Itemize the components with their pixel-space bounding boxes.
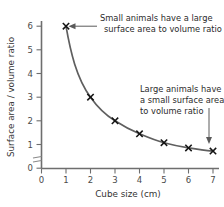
- y-tick-label-0: 0: [28, 163, 33, 173]
- y-tick-label-1: 1: [28, 140, 33, 150]
- y-tick-label-3: 3: [28, 92, 33, 102]
- annotation-large-animals-line3: to volume ratio: [140, 106, 203, 116]
- x-tick-label-3: 3: [112, 175, 117, 185]
- arrow-down-icon: [206, 137, 212, 144]
- data-point-4: [136, 131, 142, 137]
- data-point-3: [112, 118, 118, 124]
- annotation-small-animals-line1: Small animals have a large: [100, 13, 213, 23]
- x-tick-label-1: 1: [63, 175, 68, 185]
- y-axis-title: Surface area / volume ratio: [6, 37, 16, 157]
- y-tick-label-4: 4: [28, 69, 33, 79]
- surface-area-volume-chart: 6 5 4 3 2 1 0 0 1 2 3 4 5 6: [0, 0, 224, 207]
- x-axis-title: Cube size (cm): [95, 189, 161, 199]
- arrow-left-icon: [69, 23, 76, 29]
- y-tick-label-6: 6: [28, 21, 33, 31]
- annotation-large-animals-line2: a small surface area: [140, 95, 224, 105]
- y-tick-label-2: 2: [28, 116, 33, 126]
- x-tick-label-6: 6: [186, 175, 191, 185]
- chart-figure: 6 5 4 3 2 1 0 0 1 2 3 4 5 6: [0, 0, 224, 207]
- y-tick-label-5: 5: [28, 45, 33, 55]
- x-tick-labels-group: 0 1 2 3 4 5 6 7: [39, 175, 216, 185]
- y-axis-break-icon: [33, 157, 42, 163]
- x-tick-label-0: 0: [39, 175, 44, 185]
- x-tick-label-4: 4: [137, 175, 142, 185]
- annotation-small-animals-line2: surface area to volume ratio: [104, 24, 222, 34]
- x-tick-label-2: 2: [88, 175, 93, 185]
- x-tick-label-5: 5: [161, 175, 166, 185]
- annotation-small-animals-leader: [69, 23, 98, 29]
- y-tick-labels-group: 6 5 4 3 2 1 0: [28, 21, 33, 173]
- annotation-large-animals-line1: Large animals have: [140, 84, 221, 94]
- annotation-large-animals-leader: [206, 108, 212, 144]
- data-point-2: [87, 94, 93, 100]
- x-tick-label-7: 7: [210, 175, 215, 185]
